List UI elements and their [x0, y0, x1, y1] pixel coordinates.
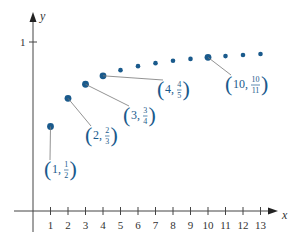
- close-paren: ): [111, 122, 118, 147]
- fraction-numerator: 4: [177, 80, 181, 89]
- leader-line: [50, 127, 51, 161]
- close-paren: ): [183, 76, 190, 101]
- x-tick-label: 12: [238, 219, 249, 231]
- point-annotation: (4,45): [157, 76, 190, 101]
- x-tick-label: 11: [220, 219, 231, 231]
- data-point: [223, 54, 228, 59]
- annotation-x: 3,: [131, 108, 140, 122]
- data-point: [171, 58, 176, 63]
- y-axis-arrow-icon: [30, 12, 37, 22]
- fraction-numerator: 2: [105, 126, 109, 135]
- leader-line: [103, 76, 163, 80]
- open-paren: (: [123, 102, 130, 127]
- x-tick-label: 5: [118, 219, 124, 231]
- x-tick-label: 8: [170, 219, 176, 231]
- point-annotation: (1,12): [44, 156, 77, 181]
- fraction-denominator: 5: [177, 91, 181, 100]
- fraction-numerator: 1: [64, 160, 68, 169]
- fraction-denominator: 11: [252, 86, 260, 95]
- x-tick-label: 10: [203, 219, 215, 231]
- x-tick-label: 2: [65, 219, 71, 231]
- fraction-denominator: 4: [143, 117, 147, 126]
- x-tick-label: 3: [83, 219, 89, 231]
- close-paren: ): [149, 102, 156, 127]
- data-point: [136, 64, 141, 69]
- close-paren: ): [261, 71, 268, 96]
- y-tick-label: 1: [20, 36, 26, 48]
- y-axis-label: y: [39, 9, 46, 23]
- x-axis-label: x: [281, 208, 288, 222]
- data-point: [188, 57, 193, 62]
- point-annotation: (3,34): [123, 102, 156, 127]
- fraction-numerator: 10: [252, 75, 260, 84]
- data-point: [241, 53, 246, 58]
- annotation-x: 10,: [233, 77, 248, 91]
- annotation-x: 1,: [52, 162, 61, 176]
- x-tick-label: 13: [255, 219, 267, 231]
- open-paren: (: [85, 122, 92, 147]
- open-paren: (: [44, 156, 51, 181]
- x-tick-label: 6: [135, 219, 141, 231]
- sequence-plot: xy112345678910111213(1,12)(2,23)(3,34)(4…: [0, 0, 294, 241]
- fraction-denominator: 3: [105, 137, 109, 146]
- x-tick-label: 7: [153, 219, 159, 231]
- annotation-x: 4,: [165, 82, 174, 96]
- data-point: [258, 52, 263, 57]
- x-tick-label: 1: [48, 219, 54, 231]
- close-paren: ): [70, 156, 77, 181]
- point-annotation: (2,23): [85, 122, 118, 147]
- open-paren: (: [225, 71, 232, 96]
- x-axis-arrow-icon: [268, 208, 278, 215]
- fraction-numerator: 3: [143, 106, 147, 115]
- data-point: [153, 61, 158, 66]
- x-tick-label: 4: [100, 219, 106, 231]
- open-paren: (: [157, 76, 164, 101]
- data-point: [118, 68, 123, 73]
- x-tick-label: 9: [188, 219, 194, 231]
- fraction-denominator: 2: [64, 171, 68, 180]
- annotation-x: 2,: [93, 128, 102, 142]
- point-annotation: (10,1011): [225, 71, 268, 96]
